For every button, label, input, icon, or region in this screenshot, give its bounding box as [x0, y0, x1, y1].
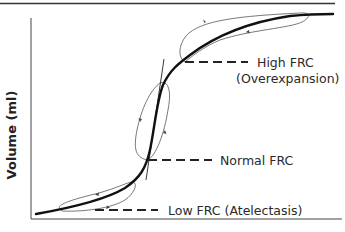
loop-high-arrow-icon: [203, 20, 206, 24]
y-axis-label: Volume (ml): [4, 91, 19, 180]
high-frc-sublabel: (Overexpansion): [236, 71, 340, 86]
low-frc-label: Low FRC (Atelectasis): [168, 203, 302, 218]
pressure-volume-diagram: Volume (ml) High FRC (Overexpansion) Nor…: [0, 0, 345, 232]
pv-curve: [36, 14, 333, 214]
high-frc-label: High FRC: [257, 55, 314, 70]
normal-frc-label: Normal FRC: [220, 153, 293, 168]
loop-low-arrow-icon: [95, 193, 99, 197]
